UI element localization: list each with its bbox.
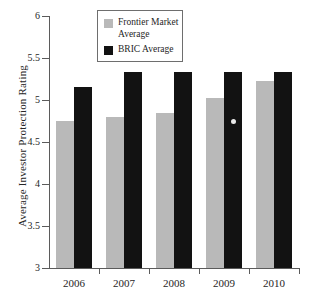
- y-axis-tick: [42, 268, 49, 269]
- y-axis-tick-label: 6: [0, 10, 40, 21]
- x-axis-tick: [199, 268, 200, 274]
- bar-2007-frontier-market-average: [106, 117, 124, 268]
- investor-protection-bar-chart: Average Investor Protection Rating 33.54…: [0, 0, 312, 299]
- bar-2008-bric-average: [174, 72, 192, 268]
- y-axis-tick: [42, 184, 49, 185]
- y-axis-tick: [42, 226, 49, 227]
- legend-entry-frontier-market-average: Frontier Market Average: [104, 17, 178, 40]
- y-axis-tick-label: 5: [0, 94, 40, 105]
- y-axis-tick-label: 5.5: [0, 52, 40, 63]
- x-axis-tick: [99, 268, 100, 274]
- bar-2006-frontier-market-average: [56, 121, 74, 268]
- bar-2009-frontier-market-average: [206, 98, 224, 268]
- bar-2006-bric-average: [74, 87, 92, 268]
- y-axis-tick-label: 4.5: [0, 136, 40, 147]
- legend-swatch-icon: [104, 19, 113, 28]
- bar-2008-frontier-market-average: [156, 113, 174, 268]
- bar-marker: [231, 119, 236, 124]
- x-axis-label-2010: 2010: [244, 277, 304, 289]
- x-axis-tick: [299, 268, 300, 274]
- bar-2010-frontier-market-average: [256, 81, 274, 268]
- x-axis-tick: [249, 268, 250, 274]
- y-axis-tick-label: 4: [0, 178, 40, 189]
- legend: Frontier Market Average BRIC Average: [97, 10, 183, 62]
- x-axis-tick: [149, 268, 150, 274]
- y-axis-tick: [42, 58, 49, 59]
- bar-2007-bric-average: [124, 72, 142, 268]
- bar-2010-bric-average: [274, 72, 292, 268]
- legend-label: BRIC Average: [118, 44, 174, 56]
- legend-entry-bric-average: BRIC Average: [104, 44, 174, 56]
- legend-swatch-icon: [104, 46, 113, 55]
- legend-label: Frontier Market Average: [118, 17, 178, 40]
- y-axis-line: [49, 16, 50, 269]
- y-axis-tick: [42, 16, 49, 17]
- bar-2009-bric-average: [224, 72, 242, 268]
- y-axis-tick: [42, 142, 49, 143]
- y-axis-tick-label: 3: [0, 262, 40, 273]
- x-axis-line: [49, 268, 299, 269]
- y-axis-tick-label: 3.5: [0, 220, 40, 231]
- y-axis-tick: [42, 100, 49, 101]
